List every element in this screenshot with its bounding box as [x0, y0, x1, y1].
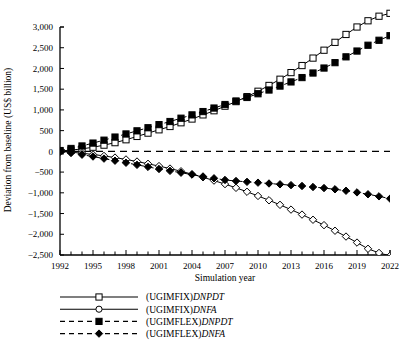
- data-point-filled-square: [134, 128, 140, 134]
- data-point-filled-diamond: [95, 330, 102, 337]
- x-tick-label: 2001: [150, 261, 168, 271]
- data-point-filled-square: [244, 94, 250, 100]
- data-point-open-square: [123, 137, 129, 143]
- data-point-filled-diamond: [353, 189, 360, 196]
- data-point-filled-diamond: [309, 183, 316, 190]
- data-point-open-square: [365, 18, 371, 24]
- data-point-filled-square: [288, 79, 294, 85]
- data-point-filled-diamond: [243, 178, 250, 185]
- data-point-open-square: [310, 55, 316, 61]
- data-point-filled-square: [332, 60, 338, 66]
- data-point-open-square: [321, 47, 327, 53]
- series-line: [60, 152, 390, 256]
- data-point-filled-square: [200, 108, 206, 114]
- legend-label: (UGIMFIX)DNFA: [146, 305, 217, 316]
- data-point-filled-diamond: [331, 186, 338, 193]
- y-tick-label: 2,000: [33, 64, 54, 74]
- x-axis-tick-labels: 1992199519982001200420072010201320162019…: [51, 261, 399, 271]
- data-point-filled-square: [365, 42, 371, 48]
- series-line: [60, 152, 390, 199]
- data-point-filled-square: [321, 65, 327, 71]
- data-point-filled-diamond: [320, 184, 327, 191]
- data-point-open-square: [299, 62, 305, 68]
- x-tick-label: 2019: [348, 261, 367, 271]
- legend-item-1[interactable]: (UGIMFIX)DNFA: [60, 305, 217, 316]
- data-point-open-diamond: [243, 188, 250, 195]
- data-point-open-diamond: [364, 245, 371, 252]
- x-tick-label: 1998: [117, 261, 136, 271]
- x-tick-label: 2004: [183, 261, 202, 271]
- data-point-filled-diamond: [298, 182, 305, 189]
- x-tick-label: 1995: [84, 261, 103, 271]
- data-point-open-square: [387, 10, 393, 16]
- y-axis-title: Deviation from baseline (US$ billion): [3, 68, 14, 213]
- data-point-open-diamond: [276, 201, 283, 208]
- data-point-open-square: [96, 294, 102, 300]
- chart-figure: −2,500−2,000−1,500−1,000−50005001,0001,5…: [0, 0, 401, 343]
- y-axis-tick-labels: −2,500−2,000−1,500−1,000−50005001,0001,5…: [28, 22, 54, 260]
- data-point-filled-square: [277, 83, 283, 89]
- data-point-filled-square: [101, 137, 107, 143]
- y-tick-label: −500: [34, 167, 53, 177]
- data-point-filled-square: [255, 91, 261, 97]
- data-point-filled-square: [167, 118, 173, 124]
- data-point-filled-square: [299, 74, 305, 80]
- series-line: [60, 13, 390, 151]
- data-point-open-diamond: [342, 233, 349, 240]
- data-point-filled-square: [310, 70, 316, 76]
- data-point-filled-square: [178, 115, 184, 121]
- legend-item-0[interactable]: (UGIMFIX)DNPDT: [60, 292, 225, 303]
- data-point-open-square: [288, 70, 294, 76]
- x-tick-label: 2007: [216, 261, 235, 271]
- data-point-open-diamond: [320, 221, 327, 228]
- data-point-filled-square: [156, 122, 162, 128]
- axis-tick-marks: [60, 27, 390, 255]
- x-tick-label: 2010: [249, 261, 268, 271]
- data-point-open-diamond: [331, 227, 338, 234]
- series-ugimflexdnpdt: [57, 33, 393, 154]
- data-point-filled-diamond: [364, 191, 371, 198]
- series-line: [60, 36, 390, 151]
- data-point-open-diamond: [254, 192, 261, 199]
- deviation-from-baseline-line-chart: −2,500−2,000−1,500−1,000−50005001,0001,5…: [0, 0, 401, 343]
- x-tick-label: 1992: [51, 261, 69, 271]
- data-point-filled-square: [354, 48, 360, 54]
- data-point-filled-square: [145, 125, 151, 131]
- data-point-open-diamond: [265, 197, 272, 204]
- series-ugimfixdnfa: [56, 148, 393, 260]
- data-point-filled-square: [266, 87, 272, 93]
- data-point-filled-square: [343, 54, 349, 60]
- data-point-filled-diamond: [254, 179, 261, 186]
- data-point-filled-square: [376, 37, 382, 43]
- legend-item-3[interactable]: (UGIMFLEX)DNFA: [60, 329, 225, 340]
- y-tick-label: −1,500: [28, 209, 54, 219]
- y-tick-label: 1,000: [33, 105, 54, 115]
- data-point-open-square: [354, 24, 360, 30]
- data-point-open-square: [332, 39, 338, 45]
- data-point-filled-square: [90, 140, 96, 146]
- data-series-group: [56, 10, 393, 259]
- data-point-filled-square: [123, 131, 129, 137]
- data-point-filled-square: [233, 98, 239, 104]
- x-axis-title: Simulation year: [195, 273, 256, 283]
- y-tick-label: −2,000: [28, 229, 54, 239]
- data-point-filled-diamond: [375, 193, 382, 200]
- y-tick-label: −2,500: [28, 250, 54, 260]
- legend-label: (UGIMFLEX)DNFA: [146, 329, 225, 340]
- x-tick-label: 2016: [315, 261, 334, 271]
- legend-item-2[interactable]: (UGIMFLEX)DNPDT: [60, 317, 233, 328]
- y-tick-label: 2,500: [33, 43, 54, 53]
- axis-frame: [60, 27, 390, 255]
- x-tick-label: 2013: [282, 261, 301, 271]
- data-point-filled-diamond: [232, 177, 239, 184]
- data-point-filled-diamond: [287, 181, 294, 188]
- legend-label: (UGIMFLEX)DNPDT: [146, 317, 233, 328]
- data-point-open-diamond: [298, 211, 305, 218]
- data-point-open-diamond: [386, 252, 393, 259]
- data-point-open-square: [376, 13, 382, 19]
- data-point-filled-square: [222, 101, 228, 107]
- data-point-open-diamond: [353, 239, 360, 246]
- data-point-open-diamond: [309, 216, 316, 223]
- data-point-open-diamond: [287, 206, 294, 213]
- series-ugimfixdnpdt: [57, 10, 393, 154]
